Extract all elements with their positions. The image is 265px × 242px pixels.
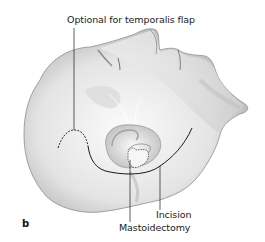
label-mastoidectomy: Mastoidectomy [119,223,190,233]
head-illustration [0,0,265,242]
label-incision: Incision [156,210,191,220]
head-illustration-figure: Optional for temporalis flap Incision Ma… [0,0,265,242]
label-temporalis-flap: Optional for temporalis flap [67,15,195,25]
panel-label: b [22,219,29,229]
